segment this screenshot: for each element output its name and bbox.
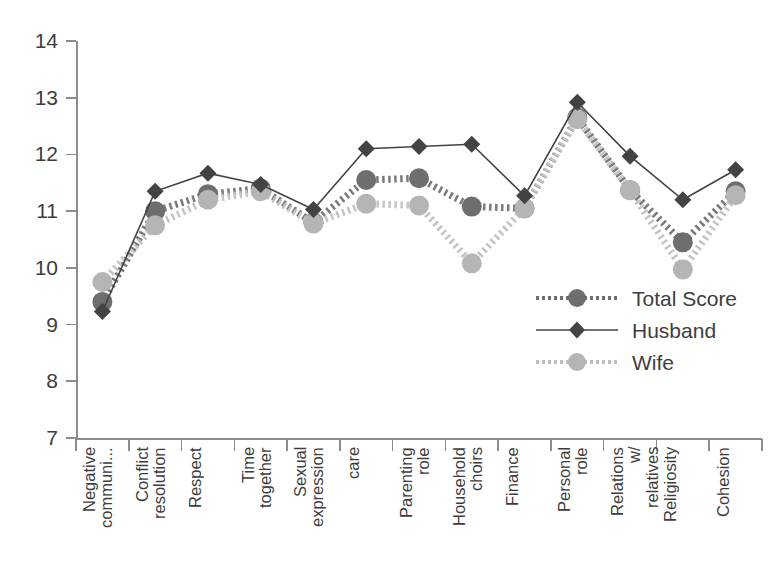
x-tick-label: Household choirs — [451, 447, 493, 565]
data-point — [409, 195, 429, 215]
data-point — [567, 109, 587, 129]
data-point — [199, 165, 216, 182]
x-tick-label: Parenting role — [398, 447, 440, 565]
data-point — [198, 190, 218, 210]
data-point — [145, 215, 165, 235]
data-point — [727, 161, 744, 178]
data-point — [620, 180, 640, 200]
x-tick-label: Conflict resolution — [134, 447, 176, 565]
chart-legend: Total Score Husband Wife — [534, 282, 737, 378]
x-tick-label: Finance — [504, 447, 546, 565]
data-point — [92, 272, 112, 292]
data-point — [356, 194, 376, 214]
legend-label-wife: Wife — [632, 352, 674, 373]
data-point — [462, 197, 482, 217]
legend-marker-total-score — [534, 288, 620, 308]
data-point — [462, 253, 482, 273]
x-tick-label: Respect — [187, 447, 229, 565]
legend-marker-wife — [534, 352, 620, 372]
data-point — [673, 232, 693, 252]
x-tick-label: Time together — [240, 447, 282, 565]
x-tick-label: Cohesion — [715, 447, 757, 565]
legend-item-husband: Husband — [534, 314, 737, 346]
legend-label-husband: Husband — [632, 320, 716, 341]
x-tick-label: Personal role — [556, 447, 598, 565]
x-tick-label: Relations w/ relatives — [609, 447, 651, 565]
data-point — [147, 183, 164, 200]
x-tick-label: Negative communi... — [81, 447, 123, 565]
data-point — [673, 260, 693, 280]
x-tick-label: Sexual expression — [292, 447, 334, 565]
chart-container: 1413121110987 Negative communi...Conflic… — [0, 0, 768, 565]
legend-marker-husband — [534, 320, 620, 340]
data-point — [726, 185, 746, 205]
data-point — [411, 138, 428, 155]
data-point — [409, 168, 429, 188]
legend-label-total-score: Total Score — [632, 288, 737, 309]
x-tick-label: Religiosity — [662, 447, 704, 565]
data-point — [356, 170, 376, 190]
legend-item-wife: Wife — [534, 346, 737, 378]
series-wife — [92, 109, 745, 292]
x-tick-label: care — [345, 447, 387, 565]
legend-item-total-score: Total Score — [534, 282, 737, 314]
